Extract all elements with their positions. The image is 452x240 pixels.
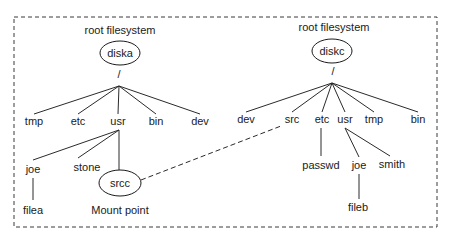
dir-node-etc: etc [315, 113, 330, 125]
tree-edge [33, 130, 119, 160]
root-filesystem-caption: root filesystem [85, 24, 156, 36]
tree-edge [119, 86, 156, 114]
root-slash: / [331, 65, 335, 77]
mount-link-dashed [141, 126, 281, 180]
dir-node-smith: smith [379, 158, 405, 170]
dir-node-stone: stone [74, 161, 101, 173]
disk-label: diskc [319, 45, 345, 57]
dir-node-filea: filea [23, 204, 44, 216]
tree-edge [292, 83, 332, 112]
dir-node-joe: joe [351, 159, 367, 171]
filesystem-mount-diagram: root filesystemdiska/tmpetcusrbindevjoes… [0, 0, 452, 240]
tree-edge [118, 86, 119, 114]
tree-edge [78, 130, 119, 158]
tree-edge [119, 86, 200, 114]
root-slash: / [117, 68, 121, 80]
dir-node-usr: usr [337, 113, 353, 125]
dir-node-etc: etc [71, 115, 86, 127]
dir-node-dev: dev [237, 113, 255, 125]
dir-node-tmp: tmp [365, 113, 383, 125]
dir-node-src: src [285, 113, 300, 125]
disk-label: diska [107, 47, 134, 59]
dir-node-fileb: fileb [348, 201, 368, 213]
dir-node-joe: joe [25, 163, 41, 175]
dir-node-dev: dev [191, 115, 209, 127]
filesystem-diska: root filesystemdiska/tmpetcusrbindevjoes… [23, 24, 209, 216]
filesystem-diskc: root filesystemdiskc/devsrcetcusrtmpbinp… [237, 21, 425, 213]
dir-node-passwd: passwd [302, 159, 339, 171]
tree-edge [78, 86, 119, 114]
mount-point-caption: Mount point [91, 204, 148, 216]
tree-edge [332, 83, 418, 112]
mount-point-label: srcc [110, 177, 131, 189]
dir-node-bin: bin [411, 113, 426, 125]
dir-node-usr: usr [110, 115, 126, 127]
dir-node-bin: bin [149, 115, 164, 127]
tree-edge [246, 83, 332, 112]
tree-edge [34, 86, 119, 114]
tree-edge [322, 83, 332, 112]
root-filesystem-caption: root filesystem [299, 21, 370, 33]
dir-node-tmp: tmp [25, 115, 43, 127]
